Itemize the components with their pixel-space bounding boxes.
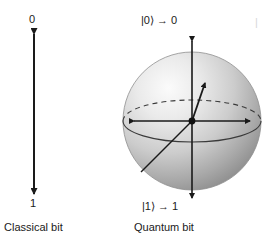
figure-graphics (0, 0, 262, 251)
quantum-ket0-label: |0⟩ → 0 (141, 15, 177, 26)
quantum-ket1-label: |1⟩ → 1 (142, 201, 178, 212)
clipped-edge-glyph: | (255, 16, 262, 28)
sphere-origin-dot (189, 118, 196, 125)
classical-bit-caption: Classical bit (4, 222, 63, 233)
classical-bit-top-label: 0 (29, 14, 35, 25)
classical-bit-bottom-label: 1 (30, 198, 36, 209)
quantum-bit-caption: Quantum bit (134, 222, 194, 233)
quantum-vs-classical-bit-figure: 0 1 Classical bit |0⟩ → 0 |1⟩ → 1 Quantu… (0, 0, 262, 251)
